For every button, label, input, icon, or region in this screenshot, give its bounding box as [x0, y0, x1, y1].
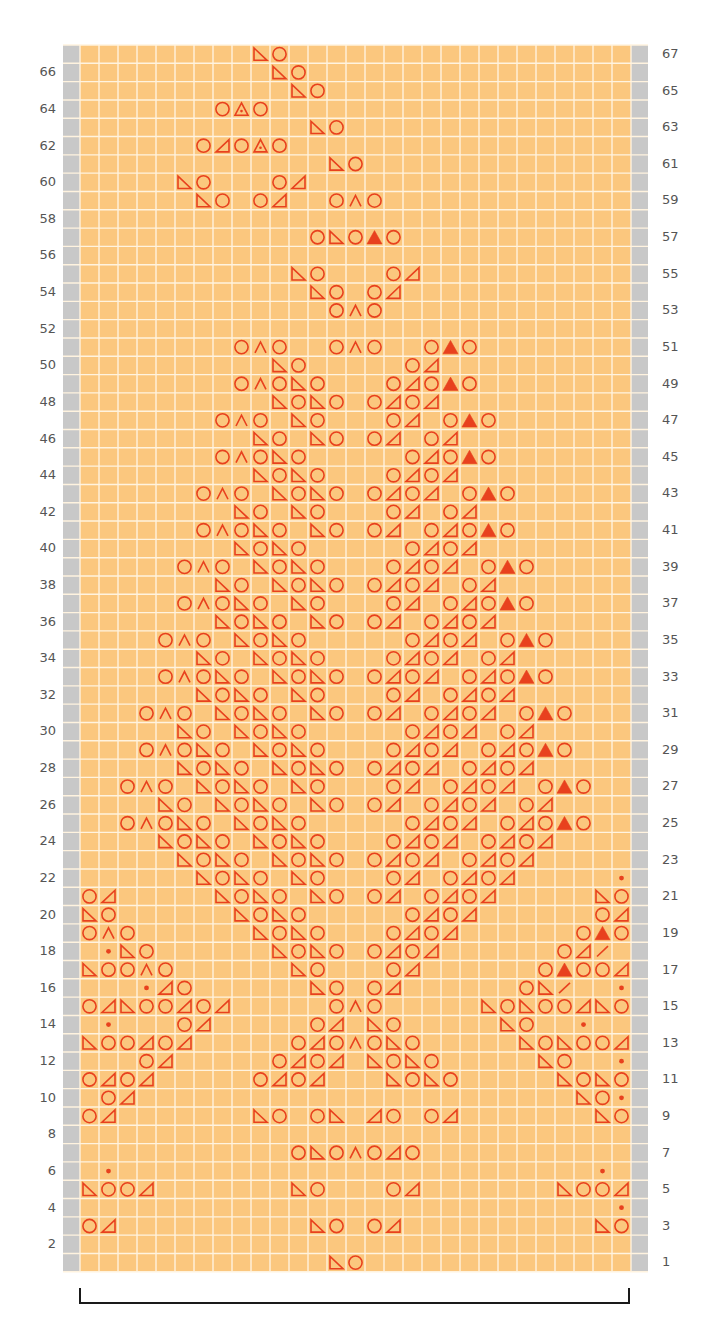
row-label-64: 64 [6, 100, 56, 118]
row-label-52: 52 [6, 320, 56, 338]
row-label-9: 9 [662, 1107, 670, 1125]
row-label-34: 34 [6, 649, 56, 667]
row-label-13: 13 [662, 1034, 679, 1052]
row-label-8: 8 [6, 1125, 56, 1143]
row-label-46: 46 [6, 430, 56, 448]
row-label-1: 1 [662, 1253, 670, 1271]
row-label-33: 33 [662, 668, 679, 686]
dot-icon [619, 876, 624, 881]
row-label-55: 55 [662, 265, 679, 283]
dot-icon [619, 1205, 624, 1210]
row-label-12: 12 [6, 1052, 56, 1070]
row-label-5: 5 [662, 1180, 670, 1198]
row-label-45: 45 [662, 448, 679, 466]
row-label-25: 25 [662, 814, 679, 832]
row-label-54: 54 [6, 283, 56, 301]
dot-icon [619, 1059, 624, 1064]
row-label-27: 27 [662, 777, 679, 795]
dot-icon [106, 1169, 111, 1174]
row-label-49: 49 [662, 375, 679, 393]
row-label-41: 41 [662, 521, 679, 539]
row-label-57: 57 [662, 228, 679, 246]
row-label-15: 15 [662, 997, 679, 1015]
row-label-10: 10 [6, 1089, 56, 1107]
row-label-22: 22 [6, 869, 56, 887]
row-label-67: 67 [662, 45, 679, 63]
row-label-20: 20 [6, 906, 56, 924]
row-label-37: 37 [662, 594, 679, 612]
row-label-23: 23 [662, 851, 679, 869]
knitting-chart: 6664626058565452504846444240383634323028… [0, 0, 710, 1332]
row-label-17: 17 [662, 961, 679, 979]
row-label-58: 58 [6, 210, 56, 228]
row-label-6: 6 [6, 1162, 56, 1180]
row-label-29: 29 [662, 741, 679, 759]
dot-icon [144, 986, 149, 991]
row-label-14: 14 [6, 1015, 56, 1033]
row-label-63: 63 [662, 118, 679, 136]
repeat-bracket [79, 1288, 630, 1304]
row-label-48: 48 [6, 393, 56, 411]
row-label-44: 44 [6, 466, 56, 484]
row-label-36: 36 [6, 613, 56, 631]
chart-background [80, 45, 631, 1272]
row-label-4: 4 [6, 1199, 56, 1217]
row-label-59: 59 [662, 191, 679, 209]
row-label-53: 53 [662, 301, 679, 319]
row-label-30: 30 [6, 722, 56, 740]
row-label-31: 31 [662, 704, 679, 722]
row-label-24: 24 [6, 832, 56, 850]
row-label-7: 7 [662, 1144, 670, 1162]
row-label-35: 35 [662, 631, 679, 649]
row-label-65: 65 [662, 82, 679, 100]
row-label-39: 39 [662, 558, 679, 576]
chart-grid [0, 0, 710, 1332]
dot-icon [619, 986, 624, 991]
row-label-56: 56 [6, 246, 56, 264]
row-label-18: 18 [6, 942, 56, 960]
row-label-2: 2 [6, 1235, 56, 1253]
row-label-38: 38 [6, 576, 56, 594]
left-edge-column [63, 45, 80, 1272]
row-label-3: 3 [662, 1217, 670, 1235]
row-label-62: 62 [6, 137, 56, 155]
row-label-43: 43 [662, 484, 679, 502]
row-label-60: 60 [6, 173, 56, 191]
dot-icon [619, 1095, 624, 1100]
row-label-28: 28 [6, 759, 56, 777]
dot-icon [106, 1022, 111, 1027]
row-label-40: 40 [6, 539, 56, 557]
row-label-50: 50 [6, 356, 56, 374]
row-label-61: 61 [662, 155, 679, 173]
right-edge-column [631, 45, 648, 1272]
row-label-11: 11 [662, 1070, 679, 1088]
dot-icon [106, 949, 111, 954]
row-label-51: 51 [662, 338, 679, 356]
row-label-26: 26 [6, 796, 56, 814]
row-label-19: 19 [662, 924, 679, 942]
row-label-47: 47 [662, 411, 679, 429]
row-label-66: 66 [6, 63, 56, 81]
row-label-32: 32 [6, 686, 56, 704]
row-label-16: 16 [6, 979, 56, 997]
dot-icon [600, 1169, 605, 1174]
row-label-21: 21 [662, 887, 679, 905]
dot-icon [581, 1022, 586, 1027]
row-label-42: 42 [6, 503, 56, 521]
